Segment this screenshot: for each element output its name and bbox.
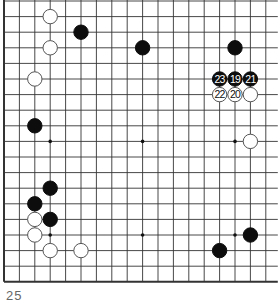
stone-disc: [243, 87, 257, 101]
star-point: [233, 140, 237, 144]
star-point: [141, 140, 145, 144]
white-stone: [243, 87, 257, 101]
black-stone: [243, 228, 257, 242]
stone-disc: [28, 228, 42, 242]
white-stone: [43, 41, 57, 55]
white-stone: [28, 72, 42, 86]
stone-disc: [28, 119, 42, 133]
black-stone: [228, 41, 242, 55]
stone-disc: [228, 41, 242, 55]
white-stone: [243, 134, 257, 148]
star-point: [141, 233, 145, 237]
stone-disc: [135, 41, 149, 55]
black-stone: [43, 181, 57, 195]
black-stone-21: 21: [243, 72, 257, 86]
black-stone: [43, 212, 57, 226]
white-stone: [28, 228, 42, 242]
move-number-label: 20: [230, 88, 241, 100]
move-number-label: 21: [245, 73, 256, 85]
black-stone-19: 19: [228, 72, 242, 86]
black-stone: [74, 25, 88, 39]
black-stone: [212, 243, 226, 257]
stone-disc: [74, 243, 88, 257]
stone-disc: [43, 243, 57, 257]
move-number-label: 19: [230, 73, 241, 85]
stone-disc: [43, 41, 57, 55]
stone-disc: [43, 212, 57, 226]
white-stone: [43, 243, 57, 257]
stone-disc: [74, 25, 88, 39]
star-point: [48, 233, 52, 237]
white-stone-20: 20: [228, 87, 242, 101]
move-number-label: 23: [215, 73, 226, 85]
star-point: [233, 233, 237, 237]
move-number-label: 22: [215, 88, 226, 100]
white-stone-22: 22: [212, 87, 226, 101]
black-stone: [28, 119, 42, 133]
diagram-caption: 25: [6, 289, 22, 302]
white-stone: [28, 212, 42, 226]
white-stone: [43, 9, 57, 23]
stone-disc: [28, 212, 42, 226]
black-stone-23: 23: [212, 72, 226, 86]
stone-disc: [43, 9, 57, 23]
stone-disc: [43, 181, 57, 195]
white-stone: [74, 243, 88, 257]
star-point: [48, 140, 52, 144]
stone-disc: [243, 134, 257, 148]
stone-disc: [28, 72, 42, 86]
stone-disc: [212, 243, 226, 257]
stone-disc: [243, 228, 257, 242]
black-stone: [28, 197, 42, 211]
black-stone: [135, 41, 149, 55]
stone-disc: [28, 197, 42, 211]
